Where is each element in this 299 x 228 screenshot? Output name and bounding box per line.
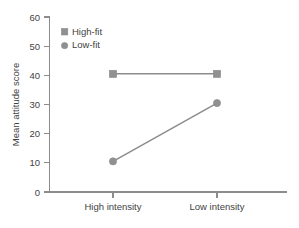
legend-marker-high-fit [61,29,67,35]
y-axis-title: Mean attitude score [10,63,21,146]
x-tick-label-high-intensity: High intensity [84,201,141,212]
y-tick-label-30: 30 [29,99,40,110]
y-tick-label-60: 60 [29,12,40,23]
y-tick-label-10: 10 [29,157,40,168]
chart-legend: High-fit Low-fit [61,26,102,50]
data-point-low-fit-high-intensity [109,158,116,165]
legend-label-low-fit: Low-fit [72,39,100,50]
x-tick-label-low-intensity: Low intensity [190,201,245,212]
data-point-high-fit-high-intensity [109,70,116,77]
line-chart: 60 50 40 30 20 10 0 High intensity Low i… [0,0,299,228]
chart-figure: 60 50 40 30 20 10 0 High intensity Low i… [0,0,299,228]
y-tick-label-0: 0 [35,187,40,198]
legend-label-high-fit: High-fit [72,26,102,37]
y-tick-label-50: 50 [29,41,40,52]
series-line-low-fit [113,103,217,161]
data-point-low-fit-low-intensity [213,99,220,106]
legend-marker-low-fit [61,42,67,48]
y-tick-label-20: 20 [29,128,40,139]
y-tick-label-40: 40 [29,70,40,81]
data-point-high-fit-low-intensity [213,70,220,77]
